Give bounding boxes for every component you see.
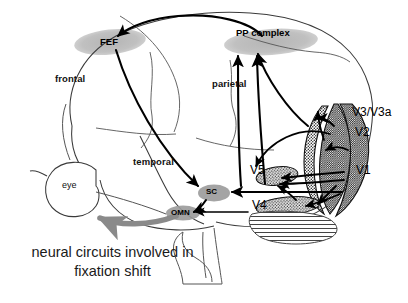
- region-label-v1: V1: [356, 164, 371, 176]
- connection-v3-to-pp: [258, 54, 308, 126]
- caption-line-2: fixation shift: [0, 262, 225, 281]
- lobe-label-parietal: parietal: [212, 79, 247, 89]
- region-label-v5: V5: [250, 164, 265, 176]
- region-label-omn: OMN: [171, 209, 190, 217]
- region-label-pp-complex: PP complex: [236, 28, 290, 38]
- region-label-sc: SC: [206, 188, 217, 196]
- connection-v2-to-v5: [256, 131, 330, 166]
- region-label-v3-v3a: V3/V3a: [352, 106, 391, 118]
- figure-canvas: frontal parietal temporal FEF PP complex…: [0, 0, 408, 303]
- connection-sc-to-omn: [194, 200, 206, 212]
- region-label-eye: eye: [62, 181, 77, 190]
- connection-omn-to-eye: [100, 216, 176, 224]
- region-label-v4: V4: [252, 199, 267, 211]
- cerebellum-hatched: [249, 211, 337, 244]
- connection-v5-to-pp: [238, 56, 241, 186]
- figure-caption: neural circuits involved in fixation shi…: [0, 243, 225, 280]
- caption-line-1: neural circuits involved in: [0, 243, 225, 262]
- region-label-fef: FEF: [100, 37, 118, 47]
- lobe-label-frontal: frontal: [55, 74, 85, 84]
- lobe-label-temporal: temporal: [133, 157, 174, 167]
- region-label-v2: V2: [355, 126, 370, 138]
